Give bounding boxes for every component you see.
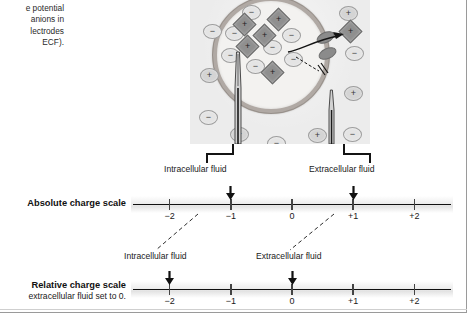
ion-sign: + [262,31,267,40]
extracellular-ion-4: − [199,110,218,125]
ecf-leader-h [343,153,371,155]
relative-scale-marker-arrow-1 [287,271,298,285]
intracellular-electrode [231,52,245,144]
absolute-scale-marker-arrow-0 [225,186,236,200]
cell-extracellular-fluid-label: Extracellular fluid [309,164,374,174]
cell-diagram-panel: ++−+−+−+−+−+ −−−−−−−+++++ [190,0,370,144]
ion-sign: + [276,15,281,24]
absolute-scale-tick-4 [414,199,415,210]
anion-blocked-arrow-icon [294,54,328,78]
ecf-leader-v2 [369,153,371,163]
absolute-scale-tick-0 [169,199,170,210]
cell-intracellular-fluid-label: Intracellular fluid [164,164,227,174]
relative-scale-title: Relative charge scale [0,280,126,290]
caption-line-2: anions in [0,14,64,25]
figure-border-bottom-inner [0,309,467,310]
relative-scale-tick-1 [230,284,231,295]
extracellular-ion-9: + [344,86,363,101]
icf-leader-h [206,153,234,155]
ion-sign: + [245,42,250,51]
relative-scale-marker-arrow-0 [164,271,175,285]
absolute-scale-tick-3 [352,199,353,210]
relative-scale-tick-label-2: 0 [289,296,294,306]
relative-scale-tick-label-0: −2 [165,296,175,306]
relative-scale-tick-2 [291,284,292,295]
relative-marker-label-intracellular: Intracellular fluid [124,251,187,261]
extracellular-ion-6: − [267,136,286,144]
relative-marker-label-extracellular: Extracellular fluid [256,251,321,261]
relative-scale-tick-0 [169,284,170,295]
extracellular-electrode [326,90,338,144]
caption-line-1: e potential [0,3,64,14]
ion-sign: + [270,68,275,77]
ion-sign: + [242,20,247,29]
extracellular-ion-7: + [308,128,327,143]
absolute-scale-tick-2 [291,199,292,210]
relative-scale-tick-label-1: −1 [226,296,236,306]
extracellular-ion-1: + [339,6,358,21]
figure-caption: e potential anions in lectrodes ECF). [0,3,64,49]
absolute-scale-title: Absolute charge scale [0,198,126,208]
absolute-scale-tick-1 [230,199,231,210]
relative-scale-tick-3 [352,284,353,295]
extracellular-ion-8: − [343,127,362,142]
caption-line-3: lectrodes [0,26,64,37]
absolute-scale-marker-arrow-1 [348,186,359,200]
scale-shift-connectors [130,212,390,254]
relative-scale-subtitle: extracellular fluid set to 0. [0,291,126,301]
caption-line-4: ECF). [0,37,64,48]
extracellular-ion-3: + [200,68,219,83]
relative-scale-tick-label-3: +1 [348,296,358,306]
relative-scale-tick-4 [414,284,415,295]
absolute-scale-tick-label-4: +2 [409,211,419,221]
figure-root: e potential anions in lectrodes ECF). ++… [0,0,467,313]
icf-leader-v2 [206,153,208,163]
relative-scale-tick-label-4: +2 [409,296,419,306]
extracellular-ion-2: − [203,24,222,39]
